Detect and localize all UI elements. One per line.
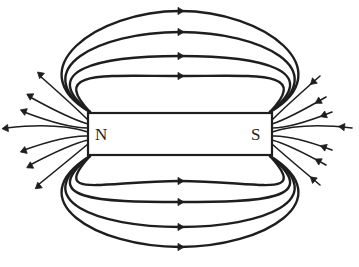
field-line-above [76,76,284,112]
field-line-above [70,56,290,112]
arrow-inward-icon [320,111,327,118]
arrow-outward-icon [38,72,45,79]
arrow-outward-icon [20,109,27,116]
arrow-right-icon [178,72,184,79]
field-loops-below [62,156,299,251]
arrow-outward-icon [20,147,27,154]
arrow-right-icon [178,28,184,35]
north-pole-label: N [95,125,107,144]
bar-magnet-field-diagram: N S [0,0,359,267]
arrow-right-icon [178,223,184,230]
arrow-right-icon [178,198,184,205]
arrow-outward-icon [2,124,8,131]
field-line-north-fan [30,140,88,165]
field-line-above [62,11,299,112]
arrow-inward-icon [320,144,327,151]
south-pole-label: S [251,125,260,144]
arrow-right-icon [178,52,184,59]
arrow-right-icon [178,177,184,184]
arrow-right-icon [178,7,184,14]
field-line-below [65,156,294,227]
bar-magnet [88,113,272,155]
field-loops-above [62,7,299,112]
arrow-right-icon [178,243,184,250]
field-line-above [65,32,294,112]
arrow-inward-icon [339,124,345,131]
